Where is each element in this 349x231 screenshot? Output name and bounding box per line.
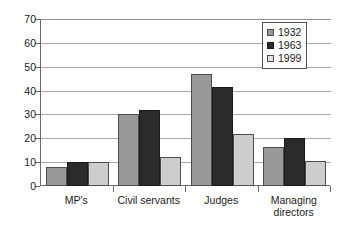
y-axis-label: 20 xyxy=(6,133,36,144)
legend-label: 1999 xyxy=(278,53,301,64)
legend-item: 1963 xyxy=(267,39,301,52)
legend-swatch-icon xyxy=(267,42,274,49)
bar xyxy=(160,157,181,186)
bar-group xyxy=(41,19,114,186)
bar xyxy=(284,138,305,186)
y-axis-label: 30 xyxy=(6,109,36,120)
legend-swatch-icon xyxy=(267,29,274,36)
legend-swatch-icon xyxy=(267,55,274,62)
bar xyxy=(67,162,88,186)
x-axis-tick xyxy=(258,186,259,192)
x-axis-tick xyxy=(185,186,186,192)
bar xyxy=(118,114,139,186)
y-axis-label: 60 xyxy=(6,38,36,49)
legend-label: 1963 xyxy=(278,40,301,51)
bar xyxy=(191,74,212,186)
bar xyxy=(139,110,160,186)
x-axis-category-label: Managing directors xyxy=(258,194,331,218)
y-axis-label: 70 xyxy=(6,14,36,25)
y-axis-label: 10 xyxy=(6,157,36,168)
bar xyxy=(46,167,67,186)
y-axis-label: 40 xyxy=(6,85,36,96)
y-axis-label: 50 xyxy=(6,61,36,72)
bar xyxy=(88,162,109,186)
bar xyxy=(305,161,326,186)
legend-item: 1932 xyxy=(267,26,301,39)
y-axis-label: 0 xyxy=(6,181,36,192)
chart-legend: 193219631999 xyxy=(262,22,307,69)
x-axis-category-label: MP's xyxy=(40,194,113,206)
bar-group xyxy=(186,19,259,186)
bar xyxy=(233,134,254,186)
bar-group xyxy=(114,19,187,186)
x-axis-category-label: Civil servants xyxy=(113,194,186,206)
bar xyxy=(212,87,233,186)
legend-item: 1999 xyxy=(267,52,301,65)
legend-label: 1932 xyxy=(278,27,301,38)
x-axis-tick xyxy=(330,186,331,192)
x-axis-tick xyxy=(113,186,114,192)
bar-chart: 010203040506070 MP'sCivil servantsJudges… xyxy=(0,0,349,231)
x-axis-category-label: Judges xyxy=(185,194,258,206)
bar xyxy=(263,147,284,186)
